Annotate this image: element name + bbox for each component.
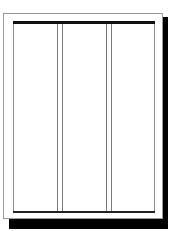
gutter-2-left-line bbox=[106, 24, 107, 211]
page-shadow-right bbox=[163, 17, 168, 229]
column-3: Column 3 bbox=[112, 24, 154, 211]
column-1: Column 1 bbox=[14, 24, 57, 211]
page-shadow-bottom bbox=[9, 219, 168, 229]
column-2: Column 2 bbox=[63, 24, 106, 211]
bottom-rule bbox=[13, 211, 155, 213]
gutter-1-left-line bbox=[57, 24, 58, 211]
